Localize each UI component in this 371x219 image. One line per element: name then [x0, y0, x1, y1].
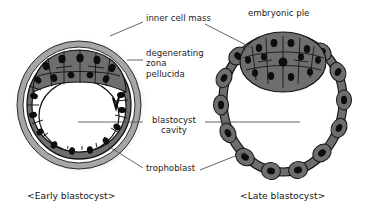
label-inner-cell-mass: inner cell mass	[146, 13, 211, 23]
label-blastocyst-cavity: blastocyst cavity	[143, 115, 205, 136]
label-trophoblast: trophoblast	[146, 163, 195, 173]
leader-inner-cell-mass-left	[110, 22, 143, 36]
early-blastocyst-figure	[12, 36, 148, 176]
leader-inner-cell-mass-right	[205, 24, 252, 48]
late-blastocyst-figure	[213, 32, 352, 181]
blastocyst-diagram-graphics	[0, 0, 371, 219]
label-embryonic-pole: embryonic ple	[248, 8, 309, 18]
caption-early-blastocyst: <Early blastocyst>	[27, 190, 115, 201]
late-inner-cell-mass	[240, 32, 326, 92]
caption-late-blastocyst: <Late blastocyst>	[240, 190, 325, 201]
diagram-canvas: inner cell mass degenerating zona pelluc…	[0, 0, 371, 219]
label-degenerating-zona-pellucida: degenerating zona pellucida	[146, 48, 204, 79]
